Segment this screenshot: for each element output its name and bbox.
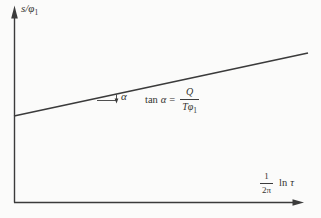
slope-line-diagram: s/φ1 α tan α = Q Tφ1 1 2π ln τ bbox=[0, 0, 321, 218]
formula-numerator: Q bbox=[183, 87, 196, 99]
angle-label: α bbox=[121, 91, 127, 102]
formula-equals: = bbox=[169, 95, 175, 106]
x-axis-label: 1 2π ln τ bbox=[260, 172, 294, 195]
slope-formula: tan α = Q Tφ1 bbox=[145, 87, 199, 114]
formula-denominator-subscript: 1 bbox=[193, 106, 197, 115]
formula-denominator: Tφ1 bbox=[180, 99, 199, 115]
x-axis-fraction-denominator: 2π bbox=[260, 183, 273, 195]
formula-tan: tan bbox=[145, 95, 158, 106]
formula-fraction: Q Tφ1 bbox=[180, 87, 199, 114]
y-axis-label-main: s/φ bbox=[21, 2, 34, 14]
x-axis-fraction-numerator: 1 bbox=[261, 172, 272, 183]
x-axis-tau: τ bbox=[290, 178, 294, 189]
y-axis-label-subscript: 1 bbox=[34, 8, 38, 17]
formula-denominator-main: Tφ bbox=[182, 101, 193, 112]
y-axis-arrowhead bbox=[11, 6, 18, 19]
x-axis-fraction: 1 2π bbox=[260, 172, 273, 195]
y-axis-label: s/φ1 bbox=[21, 3, 38, 17]
angle-arrowhead bbox=[115, 99, 119, 104]
formula-alpha: α bbox=[161, 95, 167, 106]
x-axis-ln: ln bbox=[279, 178, 287, 189]
x-axis-arrowhead bbox=[293, 199, 305, 205]
